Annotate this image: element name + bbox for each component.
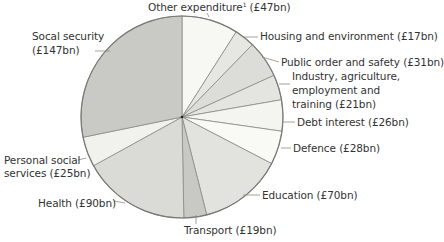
label-debt-interest: Debt interest (£26bn) <box>297 116 409 129</box>
label-transport: Transport (£19bn) <box>184 224 276 237</box>
label-health: Health (£90bn) <box>38 197 116 210</box>
label-text: Other expenditure <box>148 1 243 13</box>
label-value: (£47bn) <box>250 1 291 13</box>
label-industry-l3: training (£21bn) <box>292 98 376 111</box>
label-defence: Defence (£28bn) <box>293 142 380 155</box>
label-housing: Housing and environment (£17bn) <box>260 30 438 43</box>
pie-center <box>181 116 184 119</box>
label-industry-l1: Industry, agriculture, <box>292 70 400 83</box>
label-personal-social-l2: services (£25bn) <box>4 167 90 180</box>
label-public-order: Public order and safety (£31bn) <box>281 56 444 69</box>
label-social-security-l1: Socal security <box>32 30 104 43</box>
label-social-security-l2: (£147bn) <box>32 44 79 57</box>
pie-slices <box>81 16 283 218</box>
label-industry-l2: employment and <box>292 84 380 97</box>
label-other-expenditure: Other expenditure1 (£47bn) <box>148 0 290 14</box>
footnote-marker: 1 <box>243 1 247 8</box>
label-personal-social-l1: Personal social <box>4 154 80 167</box>
label-education: Education (£70bn) <box>262 189 357 202</box>
